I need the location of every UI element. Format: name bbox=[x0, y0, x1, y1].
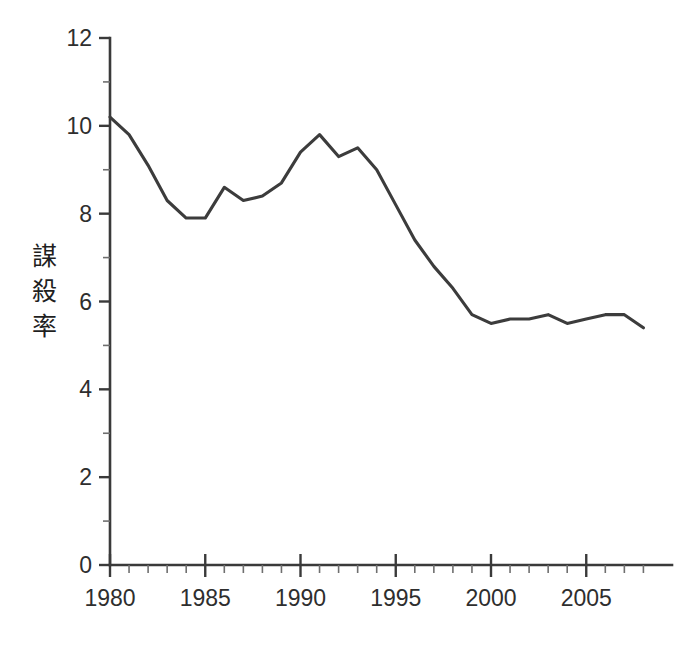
x-tick-label-2000: 2000 bbox=[465, 585, 516, 611]
y-tick-label-10: 10 bbox=[66, 113, 92, 139]
y-tick-label-4: 4 bbox=[79, 376, 92, 402]
x-tick-label-1990: 1990 bbox=[275, 585, 326, 611]
y-tick-label-6: 6 bbox=[79, 289, 92, 315]
x-tick-label-1995: 1995 bbox=[370, 585, 421, 611]
line-chart: 謀 殺 率 024681012 198019851990199520002005 bbox=[0, 0, 681, 646]
y-axis-title-char-3: 率 bbox=[32, 312, 57, 341]
y-tick-label-8: 8 bbox=[79, 201, 92, 227]
x-tick-label-2005: 2005 bbox=[561, 585, 612, 611]
x-tick-label-1980: 1980 bbox=[84, 585, 135, 611]
y-tick-label-2: 2 bbox=[79, 464, 92, 490]
chart-container: 謀 殺 率 024681012 198019851990199520002005 bbox=[0, 0, 681, 646]
x-tick-label-1985: 1985 bbox=[180, 585, 231, 611]
y-tick-label-0: 0 bbox=[79, 552, 92, 578]
y-axis-title-char-1: 謀 bbox=[32, 242, 57, 271]
y-tick-label-12: 12 bbox=[66, 25, 92, 51]
y-axis-title: 謀 殺 率 bbox=[32, 242, 57, 341]
y-axis-title-char-2: 殺 bbox=[32, 277, 57, 306]
chart-background bbox=[0, 0, 681, 646]
